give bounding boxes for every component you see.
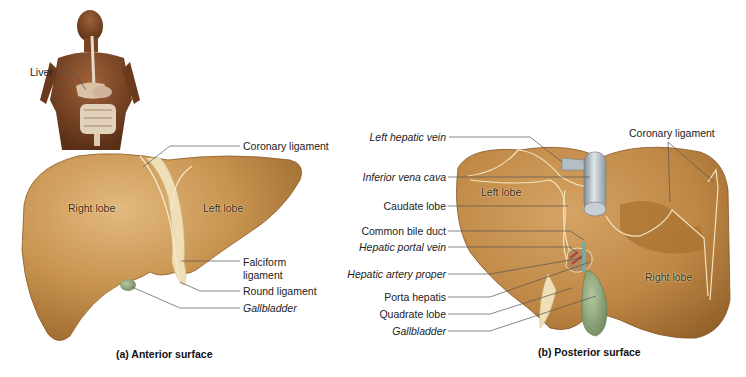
posterior-gallbladder-label: Gallbladder xyxy=(392,325,446,337)
caudate-lobe-label: Caudate lobe xyxy=(384,200,446,212)
anterior-coronary-ligament-label: Coronary ligament xyxy=(243,140,329,152)
liver-anatomy-figure: Liver Right lobe Left lobe Coronary liga… xyxy=(0,0,746,377)
caption-posterior-surface: (b) Posterior surface xyxy=(538,346,641,358)
inferior-vena-cava-label: Inferior vena cava xyxy=(363,171,446,183)
common-bile-duct-label: Common bile duct xyxy=(361,225,446,237)
round-ligament-label: Round ligament xyxy=(243,285,317,297)
hepatic-artery-proper-label: Hepatic artery proper xyxy=(347,268,446,280)
anterior-left-lobe-label: Left lobe xyxy=(203,202,243,214)
illustration-canvas xyxy=(0,0,746,377)
posterior-coronary-ligament-label: Coronary ligament xyxy=(629,127,715,139)
hepatic-portal-vein-label: Hepatic portal vein xyxy=(359,241,446,253)
inset-liver-label: Liver xyxy=(30,66,53,78)
left-hepatic-vein-label: Left hepatic vein xyxy=(370,131,446,143)
torso-inset xyxy=(40,10,140,150)
posterior-right-lobe-label: Right lobe xyxy=(645,271,692,283)
falciform-ligament-label-line1: Falciform xyxy=(243,256,286,268)
liver-posterior xyxy=(448,137,730,338)
anterior-gallbladder-label: Gallbladder xyxy=(243,302,297,314)
anterior-right-lobe-label: Right lobe xyxy=(68,202,115,214)
posterior-left-lobe-label: Left lobe xyxy=(481,186,521,198)
porta-hepatis-label: Porta hepatis xyxy=(384,291,446,303)
quadrate-lobe-label: Quadrate lobe xyxy=(379,308,446,320)
caption-anterior-surface: (a) Anterior surface xyxy=(116,348,212,360)
falciform-ligament-label-line2: ligament xyxy=(243,269,283,281)
